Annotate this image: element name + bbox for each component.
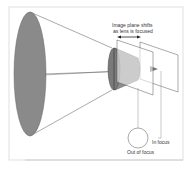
in-focus-label: In focus <box>152 139 170 145</box>
shift-label-line2: as lens is focused <box>113 28 153 34</box>
object-ellipse <box>14 12 46 136</box>
arrow-head-right <box>137 36 141 39</box>
arrow-head-left <box>117 36 121 39</box>
out-of-focus-label: Out of focus <box>127 149 154 155</box>
blur-circle <box>128 128 148 148</box>
